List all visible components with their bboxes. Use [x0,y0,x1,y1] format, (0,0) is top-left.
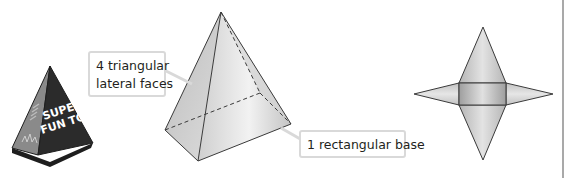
callout-base-text: 1 rectangular base [307,137,425,152]
callout-base-pointer [281,128,302,140]
net-top-triangle [459,27,506,83]
net-base-rectangle [459,83,506,105]
callout-lateral-faces: 4 triangular lateral faces [89,52,192,96]
toy-pyramid: SUPER FUN TOY [12,66,95,167]
pyramid-model [165,12,291,161]
net-right-triangle [506,83,553,105]
callout-lateral-faces-line1: 4 triangular [96,58,170,73]
callout-base: 1 rectangular base [281,128,425,157]
pyramid-net [414,27,553,160]
pyramid-figure: SUPER FUN TOY 4 triangular lateral faces [0,0,569,178]
net-bottom-triangle [459,105,506,160]
net-left-triangle [414,83,459,105]
callout-lateral-faces-line2: lateral faces [96,76,173,91]
